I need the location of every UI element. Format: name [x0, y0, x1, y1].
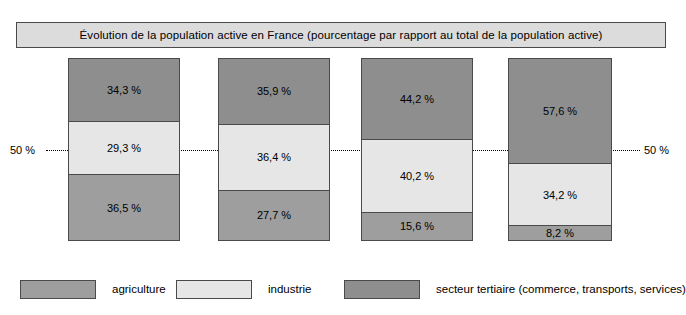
stacked-bar[interactable]: 57,6 % 34,2 % 8,2 %: [508, 58, 612, 241]
legend-swatch-icon: [20, 280, 96, 299]
bar-segment-value: 44,2 %: [400, 93, 434, 105]
bar-segment-value: 57,6 %: [543, 105, 577, 117]
legend-swatch-icon: [176, 280, 252, 299]
bar-segment-value: 35,9 %: [257, 85, 291, 97]
bar-segment-value: 34,2 %: [543, 189, 577, 201]
bar-segment-industrie[interactable]: 34,2 %: [509, 163, 611, 225]
stacked-bar[interactable]: 44,2 % 40,2 % 15,6 %: [361, 58, 473, 241]
bar-segment-agriculture[interactable]: 15,6 %: [362, 212, 472, 240]
bar-segment-agriculture[interactable]: 8,2 %: [509, 225, 611, 240]
stacked-bar[interactable]: 35,9 % 36,4 % 27,7 %: [218, 58, 330, 241]
bar-segment-tertiaire[interactable]: 44,2 %: [362, 59, 472, 139]
bar-segment-tertiaire[interactable]: 35,9 %: [219, 59, 329, 124]
chart-legend: agriculture industrie secteur tertiaire …: [0, 279, 686, 301]
bar-segment-industrie[interactable]: 29,3 %: [69, 121, 179, 174]
bar-segment-agriculture[interactable]: 36,5 %: [69, 174, 179, 240]
bar-segment-agriculture[interactable]: 27,7 %: [219, 190, 329, 240]
bar-segment-value: 15,6 %: [400, 220, 434, 232]
reference-label-right: 50 %: [644, 144, 669, 156]
bar-segment-value: 27,7 %: [257, 209, 291, 221]
bar-segment-value: 40,2 %: [400, 170, 434, 182]
reference-label-left: 50 %: [10, 144, 35, 156]
bar-segment-value: 29,3 %: [107, 142, 141, 154]
legend-item-label: industrie: [268, 283, 311, 295]
bar-segment-value: 34,3 %: [107, 84, 141, 96]
bar-segment-industrie[interactable]: 40,2 %: [362, 139, 472, 212]
legend-item-label: agriculture: [112, 283, 166, 295]
legend-item-label: secteur tertiaire (commerce, transports,…: [436, 283, 686, 295]
bar-segment-value: 36,4 %: [257, 151, 291, 163]
chart-plot-area: 50 % 50 % 34,3 % 29,3 % 36,5 % 1946 35,9…: [0, 0, 686, 315]
legend-item-agriculture[interactable]: agriculture: [20, 279, 166, 299]
bar-segment-value: 36,5 %: [107, 202, 141, 214]
stacked-bar[interactable]: 34,3 % 29,3 % 36,5 %: [68, 58, 180, 241]
legend-swatch-icon: [344, 280, 420, 299]
legend-item-secteur-tertiaire[interactable]: secteur tertiaire (commerce, transports,…: [344, 279, 686, 299]
bar-segment-industrie[interactable]: 36,4 %: [219, 124, 329, 190]
legend-item-industrie[interactable]: industrie: [176, 279, 311, 299]
bar-segment-value: 8,2 %: [546, 227, 574, 239]
bar-segment-tertiaire[interactable]: 57,6 %: [509, 59, 611, 163]
bar-segment-tertiaire[interactable]: 34,3 %: [69, 59, 179, 121]
